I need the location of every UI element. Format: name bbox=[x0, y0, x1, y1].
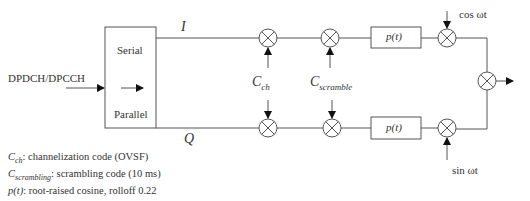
carrier-multiplier-cos bbox=[438, 29, 456, 47]
pulse-filter-q-label: p(t) bbox=[386, 121, 402, 133]
legend: Cch: channelization code (OVSF) Cscrambl… bbox=[8, 150, 161, 197]
i-branch-label: I bbox=[181, 19, 186, 35]
combining-node bbox=[478, 72, 496, 90]
channelization-multiplier-q bbox=[259, 119, 277, 137]
q-branch-label: Q bbox=[184, 131, 194, 147]
cch-label: Cch bbox=[252, 74, 270, 92]
serial-label: Serial bbox=[117, 44, 143, 56]
scramble-multiplier-q bbox=[323, 119, 341, 137]
cscramble-label: Cscramble bbox=[310, 74, 352, 92]
sin-carrier-label: sin ωt bbox=[452, 164, 478, 176]
channelization-multiplier-i bbox=[259, 29, 277, 47]
legend-item-pulse-filter: p(t): root-raised cosine, rolloff 0.22 bbox=[8, 184, 161, 197]
cos-carrier-label: cos ωt bbox=[459, 8, 487, 20]
pulse-filter-i-label: p(t) bbox=[386, 30, 402, 42]
input-label: DPDCH/DPCCH bbox=[8, 72, 85, 84]
scramble-multiplier-i bbox=[321, 29, 339, 47]
legend-item-cscrambling: Cscrambling: scrambling code (10 ms) bbox=[8, 167, 161, 184]
legend-item-cch: Cch: channelization code (OVSF) bbox=[8, 150, 161, 167]
carrier-multiplier-sin bbox=[438, 119, 456, 137]
parallel-label: Parallel bbox=[114, 108, 148, 120]
